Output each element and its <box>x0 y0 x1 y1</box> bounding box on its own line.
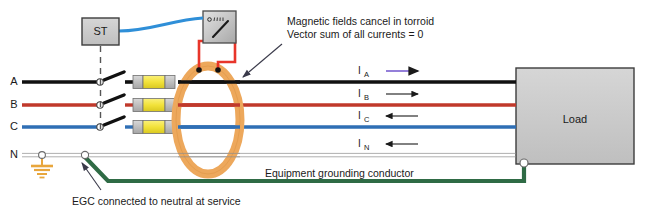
current-ic-symbol: I <box>358 110 361 121</box>
toroid-front-pass <box>178 82 240 157</box>
current-ia-subscript: A <box>364 70 369 79</box>
current-label-in: I N <box>358 138 418 152</box>
egc-conductor-label: Equipment grounding conductor <box>265 167 414 179</box>
shunt-trip-label: ST <box>93 25 107 37</box>
phase-label-n: N <box>10 148 18 160</box>
current-ic-subscript: C <box>364 115 370 124</box>
load-label: Load <box>563 113 587 125</box>
egc-load-terminal[interactable] <box>520 159 528 167</box>
fuse-phase-c <box>133 121 175 134</box>
egc-caption-leader <box>82 163 101 190</box>
phase-label-c: C <box>10 120 18 132</box>
current-ia-symbol: I <box>358 65 361 76</box>
conductor-neutral <box>22 153 516 156</box>
torroid-annotation-line1: Magnetic fields cancel in torroid <box>287 15 434 27</box>
diagram-canvas: Load <box>0 0 645 211</box>
current-label-ic: I C <box>358 110 418 124</box>
phase-label-a: A <box>10 75 18 87</box>
shunt-trip-control-wire <box>119 18 203 31</box>
torroid-annotation-leader <box>243 44 282 77</box>
phase-label-b: B <box>10 98 17 110</box>
load-box[interactable]: Load <box>516 68 634 164</box>
current-in-symbol: I <box>358 138 361 149</box>
shunt-trip-box[interactable]: ST <box>82 18 119 45</box>
current-in-subscript: N <box>364 143 369 152</box>
fuse-phase-b <box>133 99 175 112</box>
current-ib-symbol: I <box>358 88 361 99</box>
egc-neutral-bond-point[interactable] <box>81 151 88 158</box>
electrical-diagram: Load <box>0 0 645 211</box>
torroid-annotation: Magnetic fields cancel in torroid Vector… <box>243 15 434 77</box>
fuse-phase-a <box>133 76 175 89</box>
torroid-annotation-line2: Vector sum of all currents = 0 <box>287 28 423 40</box>
current-label-ia: I A <box>358 65 418 79</box>
egc-caption: EGC connected to neutral at service <box>72 195 241 207</box>
current-label-ib: I B <box>358 88 418 102</box>
current-ib-subscript: B <box>364 93 369 102</box>
ground-fault-relay-meter[interactable] <box>203 11 236 43</box>
